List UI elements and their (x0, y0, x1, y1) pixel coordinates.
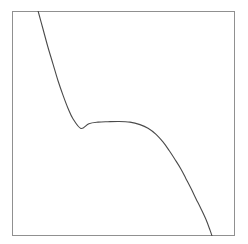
figure-root (0, 0, 248, 244)
plot-frame-border (13, 12, 235, 236)
plot-canvas (0, 0, 248, 244)
